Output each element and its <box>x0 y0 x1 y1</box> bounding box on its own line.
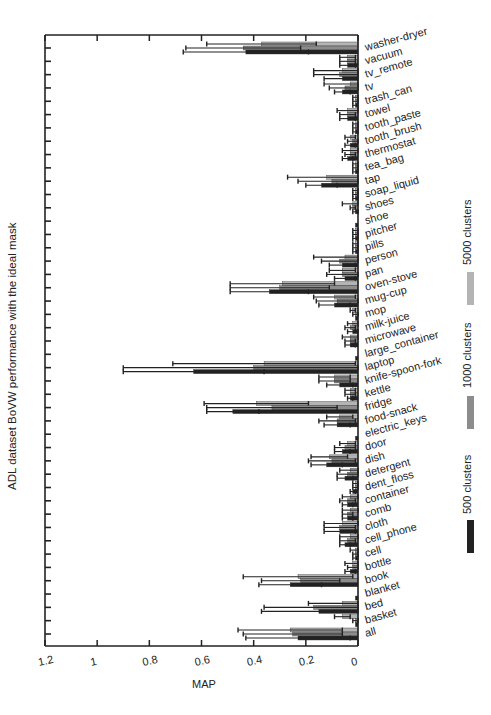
legend-label-5000: 5000 clusters <box>461 200 473 265</box>
legend-swatch-500 <box>467 520 474 553</box>
x-tick-label: 0.6 <box>193 653 210 668</box>
category-label: all <box>363 624 377 638</box>
x-tick-label: 1.2 <box>37 653 54 668</box>
bars-group <box>123 42 358 641</box>
legend-swatch-1000 <box>467 396 474 429</box>
x-axis-ticks: 1.210.80.60.40.20 <box>37 35 358 668</box>
y-axis-title: ADL dataset BoVW performance with the id… <box>6 223 18 490</box>
category-labels: washer-dryervacuumtv_remotetvtrash_canto… <box>362 25 443 639</box>
x-axis-title: MAP <box>192 678 216 690</box>
x-tick-label: 0 <box>350 655 358 668</box>
plot-frame <box>45 35 358 646</box>
legend-swatch-5000 <box>467 272 474 305</box>
x-tick-label: 1 <box>89 655 97 668</box>
category-label: tv <box>363 79 375 93</box>
y-axis-ticks <box>45 48 51 634</box>
legend-label-1000: 1000 clusters <box>461 323 473 388</box>
x-tick-label: 0.2 <box>298 653 315 668</box>
x-tick-label: 0.8 <box>141 653 158 668</box>
bar-chart: 1.210.80.60.40.20 washer-dryervacuumtv_r… <box>0 0 491 715</box>
x-tick-label: 0.4 <box>246 653 263 668</box>
legend-label-500: 500 clusters <box>461 455 473 514</box>
